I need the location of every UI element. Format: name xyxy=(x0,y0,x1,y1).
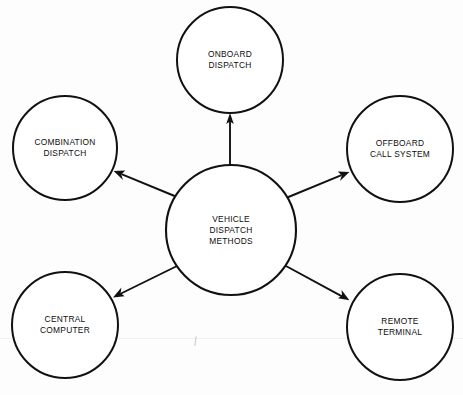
node-shape-onboard-dispatch[interactable] xyxy=(177,7,283,113)
node-shape-central-computer[interactable] xyxy=(12,272,118,378)
node-shape-vehicle-dispatch-methods[interactable] xyxy=(166,165,296,295)
node-shape-group xyxy=(12,7,453,380)
connector-line-remote-terminal xyxy=(286,266,342,296)
node-shape-combination-dispatch[interactable] xyxy=(13,96,117,200)
diagram-canvas: ONBOARD DISPATCH COMBINATION DISPATCH OF… xyxy=(0,0,463,395)
connector-to-offboard-call-system xyxy=(286,172,349,198)
connector-line-central-computer xyxy=(121,266,177,294)
connector-line-offboard-call-system xyxy=(286,175,342,198)
connector-line-combination-dispatch xyxy=(122,174,178,197)
connector-to-onboard-dispatch xyxy=(226,113,234,166)
node-shape-remote-terminal[interactable] xyxy=(347,274,453,380)
connector-to-combination-dispatch xyxy=(114,171,177,197)
connector-to-remote-terminal xyxy=(286,266,349,300)
diagram-graphics xyxy=(0,0,463,395)
node-shape-offboard-call-system[interactable] xyxy=(347,96,453,202)
connector-to-central-computer xyxy=(113,266,177,297)
